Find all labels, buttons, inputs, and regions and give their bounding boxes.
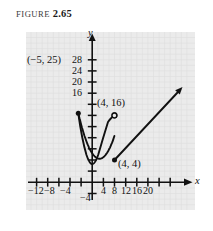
- x-tick-label-12: 12: [121, 185, 131, 196]
- x-tick-label-4: 4: [101, 185, 106, 196]
- y-tick-label-24: 24: [72, 65, 82, 76]
- y-tick-label-28: 28: [72, 54, 82, 65]
- annotation-neg5-25: (−5, 25): [27, 54, 61, 65]
- parabola-path-main: [78, 114, 114, 165]
- y-tick-label-16: 16: [72, 87, 82, 98]
- x-tick-label-neg4: −4: [60, 185, 71, 196]
- x-tick-label-16: 16: [132, 185, 142, 196]
- x-tick-label-neg12: −12: [28, 185, 44, 196]
- parabola-overlay-svg: [0, 0, 213, 231]
- annotation-4-4: (4, 4): [118, 158, 141, 169]
- figure-container: FIGURE 2.65: [0, 0, 213, 231]
- x-tick-label-20: 20: [143, 185, 153, 196]
- y-tick-label-20: 20: [72, 76, 82, 87]
- annotation-4-16: (4, 16): [97, 97, 125, 108]
- y-axis-label: y: [88, 27, 93, 38]
- x-tick-label-8: 8: [112, 185, 117, 196]
- parabola-left-endpoint: [76, 111, 81, 116]
- parabola-right-endpoint-open: [112, 113, 117, 118]
- x-axis-label: x: [195, 175, 200, 186]
- y-tick-label-neg4: −4: [80, 192, 91, 203]
- x-tick-label-neg8: −8: [44, 185, 55, 196]
